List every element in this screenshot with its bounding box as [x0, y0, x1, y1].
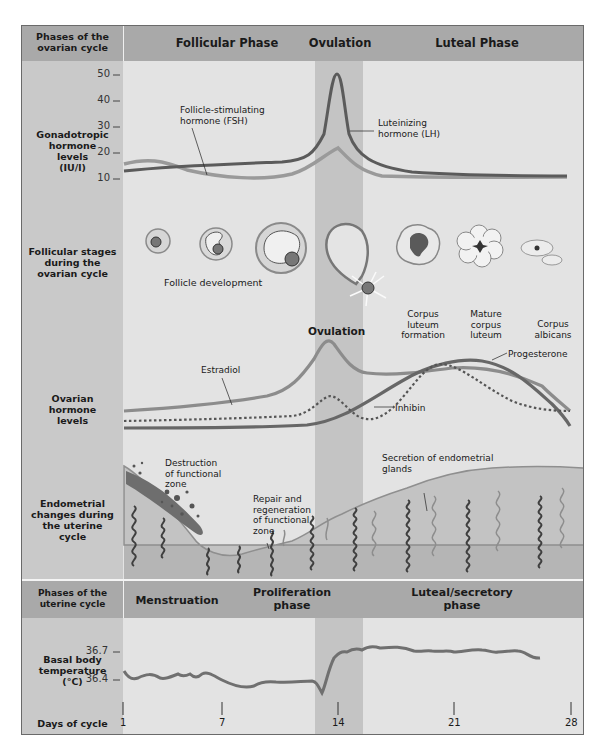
secretion-label: Secretion of endometrial glands: [382, 453, 493, 474]
bbt-curve: [124, 647, 540, 693]
ovarian-uterine-cycle-figure: Phases of theovarian cycle Follicular Ph…: [21, 25, 584, 735]
bbt-tick-36-7: 36.7: [78, 645, 108, 656]
day-tick-14: 14: [332, 718, 345, 729]
fsh-curve: [124, 148, 567, 178]
lh-curve: [124, 74, 567, 176]
day-tick-1: 1: [120, 718, 126, 729]
repair-label: Repair and regeneration of functional zo…: [253, 494, 311, 536]
estradiol-curve: [124, 341, 570, 411]
day-tick-21: 21: [448, 718, 461, 729]
progesterone-curve: [124, 360, 570, 428]
bbt-tick-36-4: 36.4: [78, 673, 108, 684]
days-of-cycle-label: Days of cycle: [22, 718, 123, 729]
day-tick-28: 28: [565, 718, 578, 729]
day-tick-7: 7: [219, 718, 225, 729]
uterine-phase-row-label: Phases of the uterine cycle: [22, 588, 123, 610]
diagram-graphics: [22, 26, 584, 735]
follicle-stages-illustrations: [146, 223, 562, 306]
destruction-label: Destruction of functional zone: [165, 458, 221, 490]
menstruation-label: Menstruation: [132, 594, 222, 607]
luteal-secretory-phase-label: Luteal/secretory phase: [407, 586, 517, 612]
proliferation-phase-label: Proliferation phase: [247, 586, 337, 612]
